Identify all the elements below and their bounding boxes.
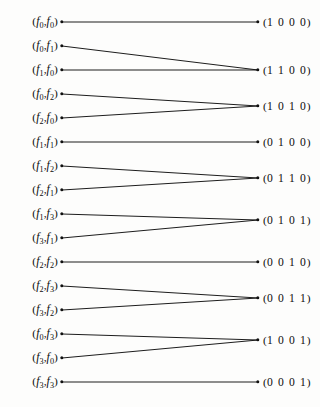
close-paren: ) (307, 64, 311, 76)
mapping-edge (62, 286, 258, 298)
mapping-edge (62, 214, 258, 220)
left-node-label: (f1,f0) (32, 62, 58, 77)
left-node-label: (f3,f1) (32, 230, 58, 245)
left-node-label: (f2,f1) (32, 182, 58, 197)
close-paren: ) (307, 292, 311, 304)
close-paren: ) (54, 159, 58, 171)
mapping-edge (62, 166, 258, 178)
right-node-label: (0 0 1 1) (263, 292, 311, 305)
function-symbol: f3 (47, 374, 54, 388)
bit-vector: 0 1 0 1 (267, 214, 307, 227)
close-paren: ) (54, 327, 58, 339)
function-symbol: f2 (47, 86, 54, 100)
function-symbol: f0 (47, 350, 54, 364)
left-node-label: (f1,f3) (32, 206, 58, 221)
function-symbol: f0 (47, 14, 54, 28)
left-node-label: (f1,f1) (32, 134, 58, 149)
close-paren: ) (54, 111, 58, 123)
function-symbol: f2 (47, 302, 54, 316)
function-symbol: f1 (47, 134, 54, 148)
close-paren: ) (54, 63, 58, 75)
right-node-label: (0 1 0 1) (263, 214, 311, 227)
bit-vector: 0 1 0 0 (267, 136, 307, 149)
function-symbol: f3 (47, 326, 54, 340)
bit-vector: 1 0 1 0 (267, 100, 307, 113)
mapping-edge (62, 94, 258, 106)
left-node-label: (f0,f3) (32, 326, 58, 341)
close-paren: ) (54, 303, 58, 315)
close-paren: ) (54, 135, 58, 147)
close-paren: ) (54, 231, 58, 243)
left-node-label: (f2,f2) (32, 254, 58, 269)
right-node-label: (0 1 1 0) (263, 172, 311, 185)
close-paren: ) (307, 376, 311, 388)
mapping-edge (62, 220, 258, 238)
bit-vector: 1 0 0 1 (267, 334, 307, 347)
close-paren: ) (54, 207, 58, 219)
close-paren: ) (54, 15, 58, 27)
function-symbol: f1 (47, 38, 54, 52)
close-paren: ) (307, 334, 311, 346)
mapping-edge (62, 334, 258, 340)
right-node-label: (1 1 0 0) (263, 64, 311, 77)
left-node-label: (f2,f3) (32, 278, 58, 293)
left-node-label: (f3,f0) (32, 350, 58, 365)
left-node-label: (f3,f2) (32, 302, 58, 317)
close-paren: ) (54, 351, 58, 363)
close-paren: ) (54, 87, 58, 99)
function-symbol: f1 (47, 230, 54, 244)
mapping-edge (62, 106, 258, 118)
function-symbol: f1 (47, 182, 54, 196)
close-paren: ) (54, 255, 58, 267)
bit-vector: 1 1 0 0 (267, 64, 307, 77)
close-paren: ) (54, 375, 58, 387)
close-paren: ) (307, 256, 311, 268)
left-node-label: (f0,f2) (32, 86, 58, 101)
function-symbol: f2 (47, 158, 54, 172)
mapping-edge (62, 46, 258, 70)
left-node-label: (f0,f1) (32, 38, 58, 53)
right-node-label: (0 0 1 0) (263, 256, 311, 269)
mapping-edge (62, 178, 258, 190)
mapping-edge (62, 298, 258, 310)
function-symbol: f0 (47, 62, 54, 76)
left-node-label: (f1,f2) (32, 158, 58, 173)
right-node-label: (1 0 1 0) (263, 100, 311, 113)
function-symbol: f3 (47, 206, 54, 220)
function-symbol: f3 (47, 278, 54, 292)
mapping-edge (62, 340, 258, 358)
bit-vector: 0 0 1 1 (267, 292, 307, 305)
bit-vector: 0 1 1 0 (267, 172, 307, 185)
mapping-diagram-figure: (f0,f0)(f0,f1)(f1,f0)(f0,f2)(f2,f0)(f1,f… (0, 0, 320, 407)
close-paren: ) (307, 100, 311, 112)
close-paren: ) (54, 279, 58, 291)
right-node-label: (0 1 0 0) (263, 136, 311, 149)
function-symbol: f0 (47, 110, 54, 124)
bit-vector: 0 0 1 0 (267, 256, 307, 269)
close-paren: ) (307, 214, 311, 226)
right-node-label: (0 0 0 1) (263, 376, 311, 389)
left-node-label: (f0,f0) (32, 14, 58, 29)
close-paren: ) (54, 39, 58, 51)
left-node-label: (f2,f0) (32, 110, 58, 125)
close-paren: ) (307, 136, 311, 148)
function-symbol: f2 (47, 254, 54, 268)
close-paren: ) (307, 16, 311, 28)
bit-vector: 0 0 0 1 (267, 376, 307, 389)
close-paren: ) (307, 172, 311, 184)
left-node-label: (f3,f3) (32, 374, 58, 389)
right-node-label: (1 0 0 1) (263, 334, 311, 347)
bit-vector: 1 0 0 0 (267, 16, 307, 29)
close-paren: ) (54, 183, 58, 195)
right-node-label: (1 0 0 0) (263, 16, 311, 29)
